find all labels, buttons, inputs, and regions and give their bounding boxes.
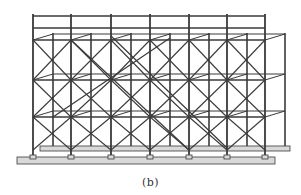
side-transom (265, 111, 285, 117)
base-jack (108, 155, 114, 159)
base-jack (186, 155, 192, 159)
front-base-plank (17, 157, 275, 164)
side-transom (265, 74, 285, 80)
base-jack (262, 155, 268, 159)
side-transom (227, 34, 247, 40)
base-jack (147, 155, 153, 159)
side-transom (33, 34, 53, 40)
base-jack (30, 155, 36, 159)
base-jack (68, 155, 74, 159)
figure-caption: (b) (0, 176, 301, 189)
scaffolding-diagram (0, 0, 301, 175)
side-transom (189, 34, 209, 40)
side-transom (71, 34, 91, 40)
side-transom (265, 34, 285, 40)
side-transom (150, 34, 170, 40)
back-base-plank (40, 146, 290, 151)
base-jack (224, 155, 230, 159)
